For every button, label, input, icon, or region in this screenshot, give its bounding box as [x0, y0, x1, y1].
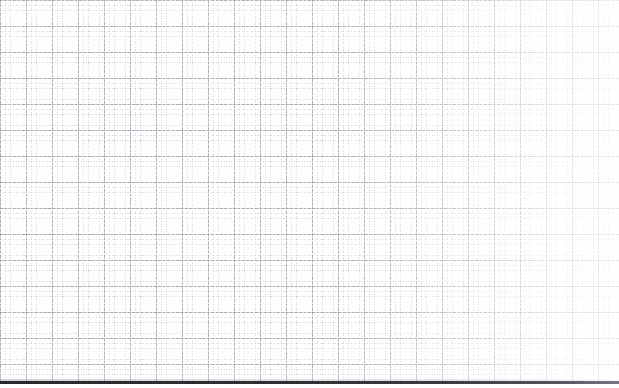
graph-paper-scan [0, 0, 619, 388]
grid-major-vertical-lines [0, 0, 619, 388]
paper-edge-underside [0, 384, 619, 388]
